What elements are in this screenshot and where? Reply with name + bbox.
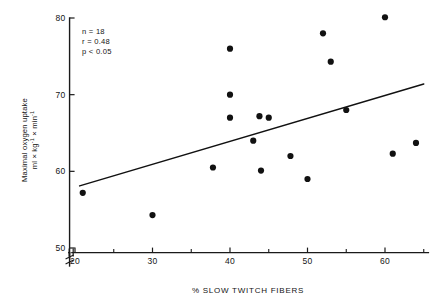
data-point-8 [256, 113, 262, 119]
data-point-4 [227, 46, 233, 52]
data-point-10 [258, 167, 264, 173]
regression-trend-line [80, 84, 424, 186]
scatter-plot-figure: 2030405060 50607080 n = 18 r = 0.48 p < … [0, 0, 438, 308]
regression-trend-line-group [80, 84, 424, 186]
x-tick-label-60: 60 [380, 256, 390, 266]
y-axis-title-line2: ml × kg-1 × min-1 [29, 111, 39, 170]
x-tick-label-40: 40 [225, 256, 235, 266]
data-point-14 [328, 59, 334, 65]
plot-canvas: 2030405060 50607080 n = 18 r = 0.48 p < … [0, 0, 438, 308]
data-point-17 [390, 151, 396, 157]
y-axis-tick-labels: 50607080 [56, 13, 66, 253]
y-axis-title: Maximal oxygen uptake ml × kg-1 × min-1 [20, 98, 39, 182]
y-axis-units-prefix: ml × kg [30, 143, 39, 169]
data-point-1 [80, 190, 86, 196]
stat-n-label: n = 18 [82, 27, 105, 36]
data-point-16 [382, 14, 388, 20]
data-point-15 [343, 107, 349, 113]
data-point-7 [250, 138, 256, 144]
statistics-annotation: n = 18 r = 0.48 p < 0.05 [82, 27, 112, 56]
data-point-12 [304, 176, 310, 182]
axes [69, 18, 429, 266]
data-point-6 [227, 115, 233, 121]
x-tick-label-30: 30 [147, 256, 157, 266]
data-point-11 [287, 153, 293, 159]
data-point-5 [227, 92, 233, 98]
data-point-2 [149, 212, 155, 218]
stat-p-label: p < 0.05 [82, 47, 112, 56]
x-tick-label-50: 50 [302, 256, 312, 266]
data-point-13 [320, 30, 326, 36]
y-tick-label-60: 60 [56, 166, 66, 176]
x-axis-title: % SLOW TWITCH FIBERS [192, 286, 304, 295]
y-tick-label-80: 80 [56, 13, 66, 23]
data-point-3 [210, 164, 216, 170]
x-axis-major-ticks [75, 248, 385, 253]
y-axis-major-ticks [70, 18, 75, 248]
stat-r-label: r = 0.48 [82, 37, 110, 46]
y-axis-units-exponent-2: -1 [29, 111, 35, 116]
y-axis-units-mid: × min [30, 116, 39, 138]
data-points-group [80, 14, 419, 218]
x-axis-tick-labels: 2030405060 [70, 256, 390, 266]
x-tick-label-20: 20 [70, 256, 80, 266]
y-axis-title-line1: Maximal oxygen uptake [20, 98, 29, 182]
y-tick-label-70: 70 [56, 90, 66, 100]
data-point-18 [413, 140, 419, 146]
data-point-9 [266, 115, 272, 121]
y-tick-label-50: 50 [56, 243, 66, 253]
